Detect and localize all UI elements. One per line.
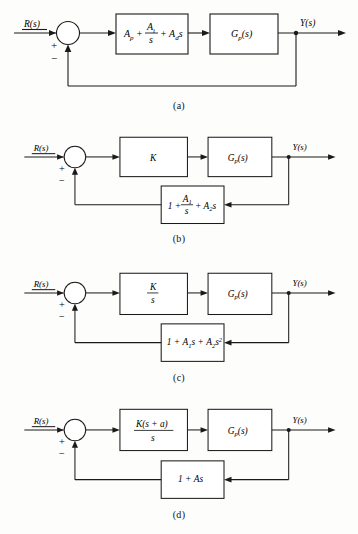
plant-expression-b: Gp(s) <box>228 153 248 164</box>
input-arrowhead-a <box>49 30 56 36</box>
plant-arrowhead-b <box>201 154 209 160</box>
feedback-block-arrowhead-b <box>224 202 232 208</box>
block-diagram-b: R(s) Y(s) + − K Gp(s) 1 + A1 s + A2s (b) <box>0 126 358 256</box>
svg-text:s: s <box>149 34 153 45</box>
summing-junction-d <box>64 419 86 441</box>
output-label-b: Y(s) <box>292 142 306 152</box>
sum-minus-sign-c: − <box>59 311 65 322</box>
sum-plus-sign-d: + <box>59 436 65 447</box>
svg-text:s: s <box>151 295 155 305</box>
svg-text:s: s <box>151 433 155 443</box>
input-label-c: R(s) <box>33 279 49 289</box>
sum-minus-sign-b: − <box>59 175 65 186</box>
plant-expression-c: Gp(s) <box>228 289 248 300</box>
plant-arrowhead-c <box>201 290 209 296</box>
sum-minus-sign-a: − <box>51 52 57 64</box>
diagram-b-canvas: R(s) Y(s) + − K Gp(s) 1 + A1 s + A2s <box>0 126 358 246</box>
summing-junction-c <box>64 282 86 304</box>
sum-plus-sign-a: + <box>51 39 57 51</box>
controller-arrowhead-d <box>112 427 120 433</box>
sum-plus-sign-c: + <box>59 299 65 310</box>
feedback-expression-c: 1 + A1s + A2s2 <box>167 336 223 349</box>
diagram-c-canvas: R(s) Y(s) + − K s Gp(s) 1 + A1s + A2s2 <box>0 262 358 382</box>
output-label-c: Y(s) <box>292 278 306 288</box>
plant-arrowhead-d <box>201 427 209 433</box>
plant-expression-d: Gp(s) <box>228 426 248 437</box>
caption-d: (d) <box>0 509 358 520</box>
block-diagram-a: R(s) Y(s) + − Ap + Ai s + Ads Gp(s) (a) <box>0 0 358 125</box>
svg-text:s: s <box>185 206 189 216</box>
output-arrowhead-d <box>328 427 336 433</box>
gain-arrowhead-b <box>112 154 120 160</box>
output-arrowhead-b <box>328 154 336 160</box>
feedback-arrowhead-a <box>65 45 72 53</box>
input-label-a: R(s) <box>23 19 40 30</box>
feedback-expression-d: 1 + As <box>178 474 203 484</box>
plant-arrowhead-a <box>202 30 210 36</box>
controller-arrowhead-c <box>112 290 120 296</box>
gain-expression-b: K <box>149 153 157 163</box>
feedback-block-arrowhead-c <box>224 340 232 346</box>
sum-plus-sign-b: + <box>59 163 65 174</box>
input-label-d: R(s) <box>33 416 49 426</box>
svg-text:+ A2s: + A2s <box>195 201 217 212</box>
svg-text:1 +: 1 + <box>168 201 181 211</box>
input-label-b: R(s) <box>33 143 49 153</box>
svg-text:K: K <box>149 282 157 292</box>
diagram-d-canvas: R(s) Y(s) + − K(s + a) s Gp(s) 1 + As <box>0 399 358 519</box>
feedback-block-arrowhead-d <box>224 477 232 483</box>
output-label-a: Y(s) <box>300 18 315 29</box>
input-arrowhead-d <box>57 427 64 433</box>
input-arrowhead-c <box>57 290 64 296</box>
feedback-arrowhead-d <box>72 441 78 448</box>
integrator-block-c <box>120 273 188 314</box>
sum-minus-sign-d: − <box>59 448 65 459</box>
input-arrowhead-b <box>57 154 64 160</box>
pi-controller-block-d <box>120 409 188 450</box>
output-arrowhead-a <box>338 30 346 36</box>
summing-junction-a <box>57 22 80 45</box>
summing-junction-b <box>64 146 86 168</box>
controller-arrowhead-a <box>108 30 116 36</box>
block-diagram-d: R(s) Y(s) + − K(s + a) s Gp(s) 1 + As (d… <box>0 399 358 534</box>
output-arrowhead-c <box>328 290 336 296</box>
output-label-d: Y(s) <box>292 415 306 425</box>
caption-a: (a) <box>0 100 358 111</box>
feedback-arrowhead-b <box>72 168 78 175</box>
block-diagram-c: R(s) Y(s) + − K s Gp(s) 1 + A1s + A2s2 (… <box>0 262 358 392</box>
caption-c: (c) <box>0 372 358 383</box>
svg-text:K(s + a): K(s + a) <box>135 419 168 430</box>
feedback-arrowhead-c <box>72 304 78 311</box>
caption-b: (b) <box>0 233 358 244</box>
